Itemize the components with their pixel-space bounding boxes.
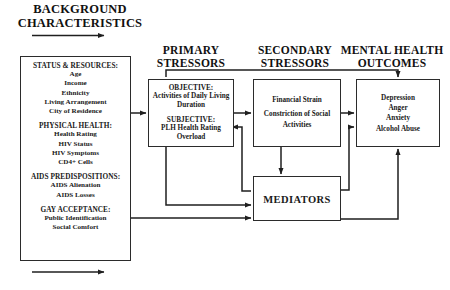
item-aids-alienation: AIDS Alienation xyxy=(21,181,130,190)
header-background-line2: CHARACTERISTICS xyxy=(2,16,158,30)
box-background-characteristics: STATUS & RESOURCES: Age Income Ethnicity… xyxy=(20,56,131,261)
item-overload: Overload xyxy=(149,133,233,142)
item-constriction-of-social-activities: Constriction of Social Activities xyxy=(254,110,340,131)
item-alcohol-abuse: Alcohol Abuse xyxy=(357,123,439,133)
item-duration: Duration xyxy=(149,102,233,111)
header-secondary-line2: STRESSORS xyxy=(243,57,347,70)
header-mental-health-outcomes: MENTAL HEALTH OUTCOMES xyxy=(336,44,448,70)
item-city-of-residence: City of Residence xyxy=(21,107,130,116)
arrow-mediators-to-primary xyxy=(232,127,251,191)
header-primary-stressors: PRIMARY STRESSORS xyxy=(143,44,239,70)
item-aids-losses: AIDS Losses xyxy=(21,191,130,200)
item-hiv-symptoms: HIV Symptoms xyxy=(21,149,130,158)
item-ethnicity: Ethnicity xyxy=(21,89,130,98)
group-subjective: SUBJECTIVE: PLH Health Rating Overload xyxy=(149,115,233,143)
group-aids-predispositions-title: AIDS PREDISPOSITIONS: xyxy=(21,172,130,181)
item-anxiety: Anxiety xyxy=(357,113,439,123)
primary-stressors-content: OBJECTIVE: Activities of Daily Living Du… xyxy=(149,83,233,142)
item-activities-of-daily-living: Activities of Daily Living xyxy=(149,93,233,102)
box-secondary-stressors: Financial Strain Constriction of Social … xyxy=(253,79,341,147)
header-mental-line1: MENTAL HEALTH xyxy=(336,44,448,57)
group-subjective-title: SUBJECTIVE: xyxy=(149,115,233,124)
diagram-canvas: BACKGROUND CHARACTERISTICS PRIMARY STRES… xyxy=(0,0,450,290)
item-public-identification: Public Identification xyxy=(21,214,130,223)
secondary-stressors-content: Financial Strain Constriction of Social … xyxy=(254,95,340,130)
item-anger: Anger xyxy=(357,103,439,113)
mental-health-outcomes-content: Depression Anger Anxiety Alcohol Abuse xyxy=(357,93,439,134)
item-income: Income xyxy=(21,79,130,88)
background-groups: STATUS & RESOURCES: Age Income Ethnicity… xyxy=(21,61,130,232)
item-constriction-line2: Activities xyxy=(254,120,340,130)
arrow-primary-to-mental-top xyxy=(166,70,398,77)
header-mental-line2: OUTCOMES xyxy=(336,57,448,70)
group-objective: OBJECTIVE: Activities of Daily Living Du… xyxy=(149,83,233,111)
item-financial-strain: Financial Strain xyxy=(254,95,340,105)
header-background-line1: BACKGROUND xyxy=(2,2,158,16)
box-mediators: MEDIATORS xyxy=(253,176,341,221)
group-objective-title: OBJECTIVE: xyxy=(149,83,233,92)
item-health-rating: Health Rating xyxy=(21,130,130,139)
group-gay-acceptance: GAY ACCEPTANCE: Public Identification So… xyxy=(21,205,130,233)
arrow-mediators-to-mental-bottom xyxy=(341,149,398,219)
arrow-mediators-to-mental xyxy=(341,127,354,190)
group-aids-predispositions: AIDS PREDISPOSITIONS: AIDS Alienation AI… xyxy=(21,172,130,200)
item-age: Age xyxy=(21,70,130,79)
box-primary-stressors: OBJECTIVE: Activities of Daily Living Du… xyxy=(148,79,234,147)
box-mental-health-outcomes: Depression Anger Anxiety Alcohol Abuse xyxy=(356,79,440,147)
group-status-resources: STATUS & RESOURCES: Age Income Ethnicity… xyxy=(21,61,130,116)
header-secondary-line1: SECONDARY xyxy=(243,44,347,57)
mediators-label: MEDIATORS xyxy=(254,193,340,204)
item-living-arrangement: Living Arrangement xyxy=(21,98,130,107)
header-primary-line1: PRIMARY xyxy=(143,44,239,57)
item-hiv-status: HIV Status xyxy=(21,140,130,149)
group-physical-health-title: PHYSICAL HEALTH: xyxy=(21,121,130,130)
item-plh-health-rating: PLH Health Rating xyxy=(149,124,233,133)
item-cd4-cells: CD4+ Cells xyxy=(21,158,130,167)
group-gay-acceptance-title: GAY ACCEPTANCE: xyxy=(21,205,130,214)
header-background-characteristics: BACKGROUND CHARACTERISTICS xyxy=(2,2,158,30)
item-social-comfort: Social Comfort xyxy=(21,223,130,232)
header-secondary-stressors: SECONDARY STRESSORS xyxy=(243,44,347,70)
item-depression: Depression xyxy=(357,93,439,103)
group-status-resources-title: STATUS & RESOURCES: xyxy=(21,61,130,70)
arrow-primary-to-mediators xyxy=(166,147,251,205)
mediators-content: MEDIATORS xyxy=(254,193,340,204)
group-physical-health: PHYSICAL HEALTH: Health Rating HIV Statu… xyxy=(21,121,130,167)
header-primary-line2: STRESSORS xyxy=(143,57,239,70)
item-constriction-line1: Constriction of Social xyxy=(254,110,340,120)
